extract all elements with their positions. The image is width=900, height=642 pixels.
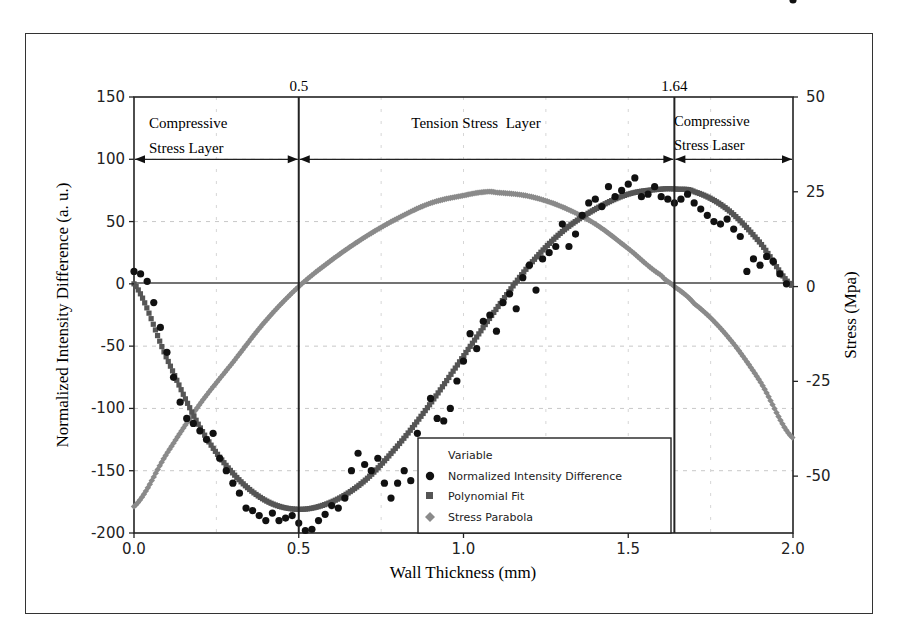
data-point (229, 480, 236, 487)
data-point (460, 357, 467, 364)
y-tick-label: -50 (101, 337, 126, 355)
fit-point (151, 322, 156, 327)
data-point (374, 455, 381, 462)
data-point (783, 280, 790, 287)
fit-point (157, 339, 162, 344)
data-point (664, 196, 671, 203)
data-point (546, 249, 553, 256)
data-point (743, 268, 750, 275)
data-point (466, 330, 473, 337)
data-point (638, 193, 645, 200)
arrow-head-left-icon (300, 155, 310, 163)
data-point (691, 199, 698, 206)
region-label-compressive-left-line1: Compressive (149, 115, 228, 131)
data-point (598, 203, 605, 210)
data-point (519, 274, 526, 281)
fit-point (149, 316, 154, 321)
data-point (394, 480, 401, 487)
legend-square-icon (426, 492, 433, 499)
legend-circle-icon (426, 472, 434, 480)
data-point (440, 417, 447, 424)
data-point (717, 220, 724, 227)
data-point (144, 278, 151, 285)
data-point (328, 502, 335, 509)
data-point (262, 517, 269, 524)
data-point (486, 311, 493, 318)
data-point (480, 318, 487, 325)
arrow-head-right-icon (288, 155, 298, 163)
y-tick-label: 100 (96, 150, 125, 168)
data-point (618, 187, 625, 194)
data-point (756, 262, 763, 269)
x-tick-label: 1.5 (616, 540, 640, 558)
arrow-head-left-icon (135, 155, 145, 163)
data-point (183, 415, 190, 422)
legend-entry-intensity: Normalized Intensity Difference (448, 470, 622, 483)
data-point (361, 461, 368, 468)
data-point (282, 514, 289, 521)
data-point (684, 191, 691, 198)
data-point (605, 183, 612, 190)
x-tick-label: 1.0 (452, 540, 476, 558)
data-point (157, 324, 164, 331)
data-point (196, 427, 203, 434)
region-label-compressive-right-line2: Stress Laser (674, 137, 745, 153)
data-point (697, 206, 704, 213)
x-axis-ticks: 0.00.51.01.52.0 (122, 533, 805, 558)
fit-point (155, 333, 160, 338)
x-tick-label: 2.0 (781, 540, 805, 558)
fit-point (176, 382, 181, 387)
data-point (625, 181, 632, 188)
data-point (704, 212, 711, 219)
region-label-compressive-left-line2: Stress Layer (149, 140, 224, 156)
data-point (401, 467, 408, 474)
data-point (170, 374, 177, 381)
data-point (407, 477, 414, 484)
arrow-head-right-icon (663, 155, 673, 163)
data-point (348, 467, 355, 474)
data-point (209, 430, 216, 437)
fit-point (179, 387, 184, 392)
data-point (434, 415, 441, 422)
data-point (631, 174, 638, 181)
data-point (658, 193, 665, 200)
data-point (559, 220, 566, 227)
data-point (381, 480, 388, 487)
data-point (789, 0, 796, 4)
data-point (190, 420, 197, 427)
data-point (242, 504, 249, 511)
y-tick-label: 50 (106, 213, 125, 231)
data-point (177, 399, 184, 406)
fit-point (146, 311, 151, 316)
data-point (341, 495, 348, 502)
y-axis-label: Normalized Intensity Difference (a. u.) (53, 183, 72, 448)
data-point (644, 191, 651, 198)
data-point (223, 467, 230, 474)
data-point (269, 509, 276, 516)
data-point (611, 193, 618, 200)
data-point (308, 526, 315, 533)
data-point (737, 233, 744, 240)
data-point (322, 511, 329, 518)
y2-tick-label: 25 (806, 183, 825, 201)
data-point (275, 517, 282, 524)
data-point (552, 243, 559, 250)
boundary-label-1-64: 1.64 (661, 78, 688, 94)
data-point (592, 196, 599, 203)
y2-tick-label: -50 (806, 467, 831, 485)
data-point (770, 258, 777, 265)
legend: Variable Normalized Intensity Difference… (418, 438, 671, 533)
data-point (249, 507, 256, 514)
data-point (354, 450, 361, 457)
data-point (315, 517, 322, 524)
y2-tick-label: -25 (806, 372, 831, 390)
region-label-compressive-right-line1: Compressive (674, 113, 750, 129)
data-point (216, 455, 223, 462)
fit-point (159, 344, 164, 349)
data-point (453, 377, 460, 384)
y-tick-label: 0 (115, 275, 125, 293)
data-point (763, 253, 770, 260)
y-tick-label: -100 (91, 399, 125, 417)
data-point (414, 430, 421, 437)
data-point (526, 262, 533, 269)
